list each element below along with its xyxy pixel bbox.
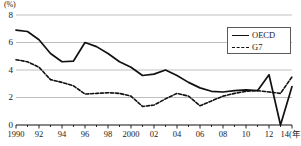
x-tick-label-2014: 14(年) bbox=[280, 130, 301, 139]
legend-item-g7: G7 bbox=[232, 42, 262, 53]
x-tick-label-2012: 12 bbox=[265, 130, 274, 139]
x-tick-label-2002: 02 bbox=[150, 130, 159, 139]
plot-area bbox=[0, 0, 301, 146]
x-tick-label-1992: 92 bbox=[35, 130, 44, 139]
legend-label-g7: G7 bbox=[252, 43, 262, 52]
x-tick-label-2000: 2000 bbox=[123, 130, 140, 139]
series-line-g7 bbox=[16, 60, 292, 107]
legend-swatch-solid-icon bbox=[232, 35, 249, 36]
x-tick-label-2004: 04 bbox=[173, 130, 182, 139]
x-tick-label-1998: 98 bbox=[104, 130, 113, 139]
x-tick-label-2010: 10 bbox=[242, 130, 251, 139]
x-tick-label-2008: 08 bbox=[219, 130, 228, 139]
x-tick-label-1994: 94 bbox=[58, 130, 67, 139]
legend: OECD G7 bbox=[227, 27, 291, 54]
legend-swatch-dashed-icon bbox=[232, 47, 249, 48]
x-tick-label-1990: 1990 bbox=[8, 130, 25, 139]
x-tick-label-2006: 06 bbox=[196, 130, 205, 139]
x-tick-label-1996: 96 bbox=[81, 130, 90, 139]
legend-item-oecd: OECD bbox=[232, 30, 275, 41]
line-chart: (%) 02468 199092949698200002040608101214… bbox=[0, 0, 301, 146]
legend-label-oecd: OECD bbox=[252, 31, 275, 40]
